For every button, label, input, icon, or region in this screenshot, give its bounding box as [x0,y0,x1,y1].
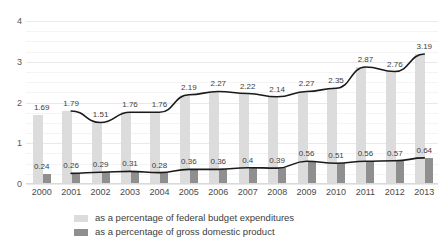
data-label-federal-budget-2011: 2.87 [358,56,374,64]
x-axis-tick-2012: 2012 [385,188,405,197]
y-axis-tick-0: 0 [8,180,22,189]
data-label-federal-budget-2008: 2.14 [269,86,285,94]
x-axis-tick-2010: 2010 [326,188,346,197]
legend-label-gdp: as a percentage of gross domestic produc… [95,227,275,237]
bar-federal-budget-2004 [150,112,160,184]
bar-gdp-2007 [249,168,257,184]
data-label-gdp-2010: 0.51 [328,152,344,160]
bar-federal-budget-2003 [121,112,131,184]
data-label-federal-budget-2003: 1.76 [122,101,138,109]
bar-federal-budget-2006 [209,92,219,185]
x-axis-tick-2000: 2000 [32,188,52,197]
x-axis-tick-2009: 2009 [297,188,317,197]
data-label-gdp-2011: 0.56 [358,150,374,158]
chart-container: 01234 1.691.791.511.761.762.192.272.222.… [0,0,442,251]
y-axis-tick-3: 3 [8,57,22,66]
bar-federal-budget-2007 [239,94,249,184]
data-label-federal-budget-2013: 3.19 [416,43,432,51]
gridline [26,133,438,134]
data-label-federal-budget-2001: 1.79 [63,100,79,108]
plot-area [26,21,438,184]
bar-federal-budget-2009 [298,92,308,185]
data-label-gdp-2007: 0.4 [242,157,253,165]
gridline [26,153,438,154]
data-label-federal-budget-2002: 1.51 [93,111,109,119]
data-label-federal-budget-2010: 2.35 [328,77,344,85]
legend-swatch-icon [74,215,88,222]
gridline [26,82,438,83]
x-axis-tick-2007: 2007 [238,188,258,197]
data-label-gdp-2000: 0.24 [34,163,50,171]
bar-federal-budget-2005 [180,95,190,184]
data-label-federal-budget-2005: 2.19 [181,84,197,92]
legend-label-federal-budget: as a percentage of federal budget expend… [95,213,294,223]
x-axis-tick-2013: 2013 [414,188,434,197]
y-axis-tick-4: 4 [8,17,22,26]
y-axis-tick-1: 1 [8,139,22,148]
bar-gdp-2008 [278,168,286,184]
gridline [26,164,438,165]
gridline [26,52,438,53]
data-label-gdp-2013: 0.64 [416,147,432,155]
bar-federal-budget-2002 [92,122,102,184]
bar-gdp-2005 [190,169,198,184]
bar-gdp-2009 [308,161,316,184]
bar-gdp-2012 [396,161,404,184]
legend-item-federal-budget: as a percentage of federal budget expend… [74,211,394,225]
gridline [26,72,438,73]
x-axis-tick-2006: 2006 [208,188,228,197]
chart-legend: as a percentage of federal budget expend… [74,211,394,239]
x-axis-tick-2008: 2008 [267,188,287,197]
gridline [26,31,438,32]
gridline [26,103,438,104]
data-label-gdp-2002: 0.29 [93,161,109,169]
data-label-federal-budget-2000: 1.69 [34,104,50,112]
data-label-gdp-2004: 0.28 [152,162,168,170]
bar-gdp-2010 [337,163,345,184]
x-axis-baseline [26,183,438,184]
gridline [26,123,438,124]
x-axis-tick-2011: 2011 [356,188,375,197]
data-label-federal-budget-2004: 1.76 [152,101,168,109]
data-label-federal-budget-2007: 2.22 [240,83,256,91]
bar-federal-budget-2010 [327,88,337,184]
bar-federal-budget-2011 [356,67,366,184]
x-axis-tick-2001: 2001 [61,188,81,197]
bar-federal-budget-2013 [415,54,425,184]
legend-swatch-icon [74,229,88,236]
data-label-gdp-2008: 0.39 [269,157,285,165]
gridline [26,184,438,185]
gridline [26,143,438,144]
bar-gdp-2013 [425,158,433,184]
bar-federal-budget-2012 [386,72,396,184]
bar-federal-budget-2001 [62,111,72,184]
x-axis-tick-2003: 2003 [120,188,140,197]
gridline [26,21,438,22]
data-label-federal-budget-2009: 2.27 [299,80,315,88]
x-axis-tick-2002: 2002 [91,188,111,197]
data-label-federal-budget-2006: 2.27 [210,80,226,88]
data-label-gdp-2005: 0.36 [181,158,197,166]
legend-item-gdp: as a percentage of gross domestic produc… [74,225,394,239]
data-label-gdp-2001: 0.26 [63,162,79,170]
y-axis-tick-2: 2 [8,98,22,107]
data-label-federal-budget-2012: 2.76 [387,61,403,69]
gridline [26,62,438,63]
bar-gdp-2011 [366,161,374,184]
data-label-gdp-2003: 0.31 [122,160,138,168]
bar-gdp-2006 [219,169,227,184]
data-label-gdp-2009: 0.56 [299,150,315,158]
data-label-gdp-2006: 0.36 [210,158,226,166]
x-axis-tick-2004: 2004 [149,188,169,197]
x-axis-tick-2005: 2005 [179,188,199,197]
gridline [26,41,438,42]
gridline [26,174,438,175]
data-label-gdp-2012: 0.57 [387,150,403,158]
bar-federal-budget-2000 [33,115,43,184]
bar-federal-budget-2008 [268,97,278,184]
gridline [26,92,438,93]
gridline [26,113,438,114]
